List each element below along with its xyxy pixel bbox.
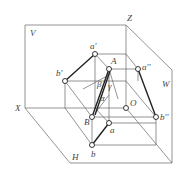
segment-ab (92, 123, 109, 145)
angle-alpha-label: α (100, 94, 105, 103)
point-b-label: b (91, 150, 96, 159)
segment-a-prime-b-prime (65, 54, 95, 81)
point-A-label: A (111, 57, 117, 66)
axis-z-label: Z (127, 14, 132, 23)
point-b-prime-label: b' (56, 69, 62, 78)
angle-beta-label: β (97, 80, 101, 89)
point-a-prime-label: a' (90, 42, 96, 51)
plane-w-label: W (162, 80, 170, 89)
plane-v-label: V (30, 29, 36, 38)
plane-h-label: H (72, 153, 79, 162)
projection-diagram: V Z W X H O a' A a'' b' B b'' a b β γ α (0, 0, 184, 179)
angle-gamma-label: γ (108, 82, 112, 91)
point-B-label: B (84, 118, 90, 127)
point-a-label: a (110, 126, 115, 135)
segment-a2-b2 (138, 69, 156, 117)
point-a-double-prime-label: a'' (142, 63, 150, 72)
axis-x-label: X (15, 104, 21, 113)
w-plane-outline (126, 25, 172, 163)
origin-o-label: O (130, 99, 137, 108)
point-b-double-prime-label: b'' (160, 113, 168, 122)
